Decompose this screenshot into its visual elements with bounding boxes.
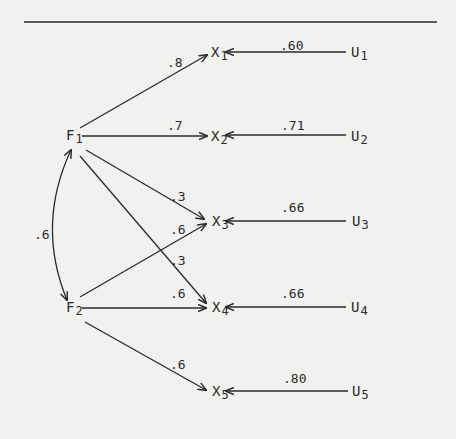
label-u3-x3: .66 [281,201,304,214]
node-u5: U5 [352,384,369,398]
label-f1-f2-correlation: .6 [34,228,50,241]
node-f1: F1 [66,128,83,142]
label-f1-x1: .8 [167,56,183,69]
label-u1-x1: .60 [280,39,303,52]
label-u4-x4: .66 [281,287,304,300]
label-f2-x3: .6 [170,223,186,236]
node-u3: U3 [352,214,369,228]
node-x2: X2 [211,129,228,143]
node-x1: X1 [211,45,228,59]
path-f1-x4 [80,156,206,303]
node-u4: U4 [351,300,368,314]
node-x5: X5 [212,384,229,398]
path-f2-x3 [80,224,206,297]
node-u1: U1 [351,45,368,59]
label-f1-x2: .7 [167,119,183,132]
path-f1-f2-correlation [52,150,71,300]
label-u2-x2: .71 [281,119,304,132]
path-f2-x5 [85,322,206,390]
label-f1-x3: .3 [170,190,186,203]
node-x4: X4 [212,300,229,314]
node-f2: F2 [66,300,83,314]
path-f1-x1 [80,55,207,128]
label-f1-x4: .3 [170,254,186,267]
node-x3: X3 [212,214,229,228]
label-u5-x5: .80 [283,372,306,385]
label-f2-x5: .6 [170,358,186,371]
node-u2: U2 [351,129,368,143]
label-f2-x4: .6 [170,287,186,300]
